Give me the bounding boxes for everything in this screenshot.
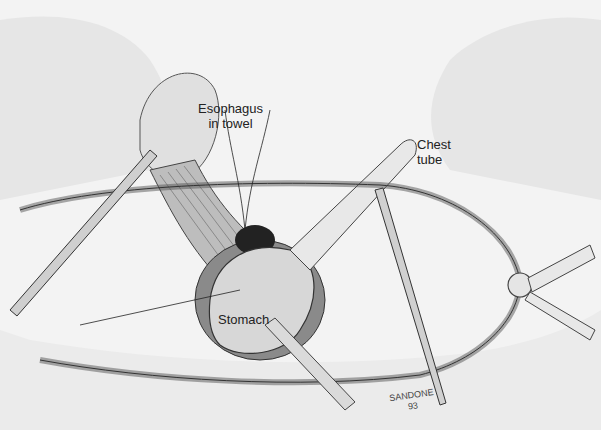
esophagus-label: Esophagus in towel: [198, 101, 263, 131]
chest-tube-label: Chest tube: [417, 137, 451, 167]
chest-tube-label-line1: Chest: [417, 137, 451, 152]
esophagus-label-line2: in towel: [198, 116, 263, 131]
illustration-drawing: [0, 0, 601, 430]
stomach-label: Stomach: [218, 312, 269, 327]
chest-tube-label-line2: tube: [417, 152, 451, 167]
surgical-illustration: Esophagus in towel Chest tube Stomach SA…: [0, 0, 601, 430]
esophagus-label-line1: Esophagus: [198, 101, 263, 116]
